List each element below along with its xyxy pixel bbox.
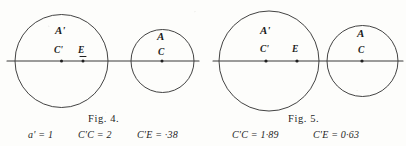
fig4-formula-3: C'E = ·38	[137, 129, 178, 140]
fig5-point-c	[360, 59, 363, 62]
figure-page: A' C' E A C A' C' E A C Fig. 4. Fig. 5. …	[0, 0, 406, 146]
fig4-point-c-prime	[60, 60, 63, 63]
fig4-caption-title: Fig. 4.	[88, 113, 119, 124]
fig5-caption-title: Fig. 5.	[288, 113, 319, 124]
fig5-point-c-prime	[264, 59, 267, 62]
fig4-small-center-label: C	[158, 47, 164, 57]
fig5-formula-2: C'E = 0·63	[313, 129, 359, 140]
fig4-point-e	[82, 60, 85, 63]
figures-canvas	[0, 0, 406, 146]
fig5-large-center-label: C'	[260, 44, 269, 54]
fig4-point-c	[161, 60, 164, 63]
fig5-point-e	[295, 59, 298, 62]
fig5-small-center-label: C	[358, 45, 364, 55]
fig5-large-region-label: A'	[260, 24, 270, 36]
fig4-small-region-label: A	[157, 30, 164, 42]
fig4-large-center-label: C'	[54, 45, 63, 55]
fig5-point-e-label: E	[292, 44, 298, 54]
fig5-small-region-label: A	[357, 27, 364, 39]
fig5-formula-1: C'C = 1·89	[232, 129, 279, 140]
fig4-formula-1: a' = 1	[28, 129, 53, 140]
fig4-formula-2: C'C = 2	[78, 129, 112, 140]
fig4-large-region-label: A'	[55, 24, 65, 36]
fig4-point-e-label: E	[78, 45, 84, 55]
